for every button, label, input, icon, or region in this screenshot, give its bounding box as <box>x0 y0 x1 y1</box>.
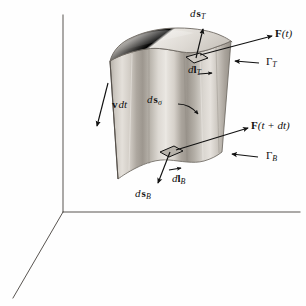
force-t-arrow <box>200 36 272 55</box>
ds-sigma-curved-arrow <box>178 104 198 114</box>
figure-canvas: dsT F(t) ΓT dlT vdt dsσ F(t + dt) ΓB dlB… <box>0 0 306 306</box>
velocity-dt-arrow <box>97 83 108 126</box>
label-gamma-bottom: ΓB <box>266 150 277 163</box>
label-dl-bottom: dlB <box>172 173 185 186</box>
label-dl-top: dlT <box>188 64 201 77</box>
label-gamma-top: ΓT <box>266 56 277 69</box>
label-v-dt: vdt <box>112 99 127 110</box>
label-ds-sigma: dsσ <box>147 94 162 107</box>
force-t-plus-dt-arrow <box>176 128 248 150</box>
label-ds-top: dsT <box>190 8 205 21</box>
gamma-top-pointer-arrow <box>235 61 259 63</box>
gamma-bottom-pointer-arrow <box>232 154 258 157</box>
annotation-layer <box>0 0 306 306</box>
bottom-differential-patch <box>160 146 183 157</box>
label-force-t-plus-dt: F(t + dt) <box>251 120 290 131</box>
label-ds-bottom: dsB <box>135 188 151 201</box>
ds-bottom-arrow <box>158 152 170 183</box>
label-force-t: F(t) <box>275 28 292 39</box>
dl-bottom-arrow <box>169 168 181 170</box>
